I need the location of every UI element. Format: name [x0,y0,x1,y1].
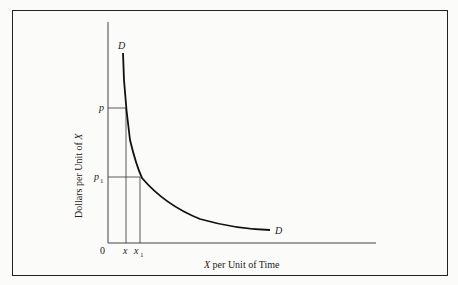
x-axis-title: X per Unit of Time [203,259,280,270]
demand-chart: D D p p 1 0 x x 1 X per Unit of Time Dol… [0,0,458,285]
tick-label-x1: x [133,245,139,256]
tick-label-p1-sub: 1 [100,177,104,185]
tick-label-p: p [98,102,104,113]
demand-curve [123,53,270,230]
tick-label-x1-sub: 1 [140,251,144,259]
y-axis-title: Dollars per Unit of X [73,133,84,218]
tick-label-p1: p [93,171,99,182]
curve-label-end: D [274,225,283,236]
curve-label-top: D [117,40,126,51]
tick-label-x: x [122,245,128,256]
tick-label-origin: 0 [100,245,105,256]
